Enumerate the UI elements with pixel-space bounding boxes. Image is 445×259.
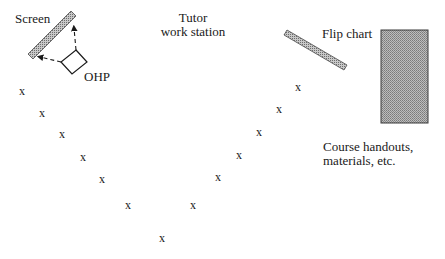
seat-marker: x	[213, 171, 223, 183]
seat-marker: x	[234, 149, 244, 161]
screen-label: Screen	[15, 12, 50, 26]
ohp-label: OHP	[84, 70, 110, 84]
seat-marker: x	[123, 199, 133, 211]
flip-chart-label: Flip chart	[322, 27, 372, 41]
seat-marker: x	[97, 173, 107, 185]
seat-marker: x	[78, 151, 88, 163]
handouts-label-line1: Course handouts,	[323, 140, 413, 154]
handouts-label: Course handouts, materials, etc.	[323, 140, 413, 168]
tutor-workstation-label: Tutor work station	[148, 11, 238, 39]
tutor-label-line2: work station	[148, 25, 238, 39]
seat-marker: x	[274, 103, 284, 115]
handouts-table	[381, 30, 428, 123]
seat-marker: x	[293, 81, 303, 93]
seat-marker: x	[57, 128, 67, 140]
tutor-label-line1: Tutor	[148, 11, 238, 25]
training-room-layout-diagram: Screen OHP Tutor work station Flip chart…	[0, 0, 445, 259]
handouts-label-line2: materials, etc.	[323, 154, 413, 168]
seat-marker: x	[17, 85, 27, 97]
seat-marker: x	[157, 232, 167, 244]
seat-marker: x	[254, 126, 264, 138]
seat-marker: x	[37, 107, 47, 119]
seat-marker: x	[188, 199, 198, 211]
